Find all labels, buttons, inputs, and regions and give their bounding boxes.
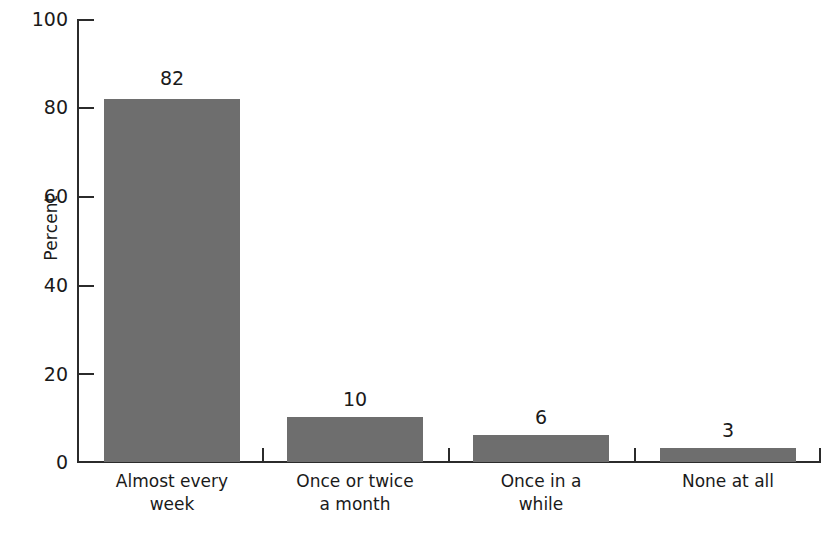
x-category-label-line-1: Once in a [453, 470, 629, 493]
x-category-label-almost-every-week: Almost every week [84, 470, 260, 516]
x-category-label-line-2: a month [267, 493, 443, 516]
bar-almost-every-week [104, 99, 240, 462]
x-category-label-once-in-a-while: Once in a while [453, 470, 629, 516]
x-tick-mark-3 [634, 448, 636, 462]
y-tick-mark-20 [79, 373, 94, 375]
y-axis-line [77, 19, 79, 463]
x-tick-mark-4 [819, 448, 821, 462]
x-category-label-line-1: None at all [640, 470, 816, 493]
y-tick-mark-60 [79, 196, 94, 198]
x-category-label-line-2: while [453, 493, 629, 516]
bar-none-at-all [660, 448, 796, 462]
y-tick-label-100: 100 [22, 10, 68, 29]
bar-once-or-twice-a-month [287, 417, 423, 462]
x-tick-mark-1 [262, 448, 264, 462]
x-tick-mark-0 [77, 448, 79, 462]
y-tick-label-40: 40 [22, 276, 68, 295]
x-category-label-none-at-all: None at all [640, 470, 816, 493]
y-tick-mark-80 [79, 107, 94, 109]
bar-once-in-a-while [473, 435, 609, 462]
y-axis-tick-labels: 100 80 60 40 20 0 [20, 0, 68, 543]
y-tick-mark-100 [79, 19, 94, 21]
bar-value-once-in-a-while: 6 [473, 408, 609, 427]
y-tick-label-80: 80 [22, 98, 68, 117]
x-category-label-once-or-twice-a-month: Once or twice a month [267, 470, 443, 516]
bar-value-almost-every-week: 82 [104, 69, 240, 88]
x-category-label-line-1: Once or twice [267, 470, 443, 493]
bar-chart: Percent 100 80 60 40 20 0 82 10 6 3 Almo… [0, 0, 837, 543]
y-tick-label-20: 20 [22, 365, 68, 384]
y-tick-mark-40 [79, 285, 94, 287]
x-tick-mark-2 [448, 448, 450, 462]
x-category-label-line-2: week [84, 493, 260, 516]
x-category-label-line-1: Almost every [84, 470, 260, 493]
bar-value-once-or-twice-a-month: 10 [287, 390, 423, 409]
y-tick-label-0: 0 [22, 453, 68, 472]
bar-value-none-at-all: 3 [660, 421, 796, 440]
y-tick-label-60: 60 [22, 187, 68, 206]
